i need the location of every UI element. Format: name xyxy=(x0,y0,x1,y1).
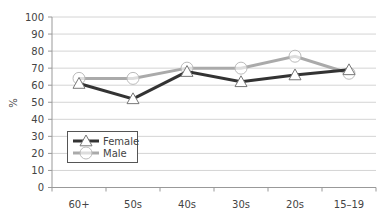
series-line xyxy=(79,70,349,99)
y-tick-label: 40 xyxy=(31,114,44,125)
y-axis: 0102030405060708090100 xyxy=(25,12,52,194)
y-tick-label: 60 xyxy=(31,80,44,91)
y-tick-label: 10 xyxy=(31,165,44,176)
y-tick-label: 30 xyxy=(31,131,44,142)
x-tick-label: 30s xyxy=(232,199,250,210)
y-tick-label: 90 xyxy=(31,29,44,40)
circle-marker xyxy=(235,62,247,74)
legend: FemaleMale xyxy=(68,132,140,163)
y-tick-label: 0 xyxy=(38,182,44,193)
legend-label: Female xyxy=(103,136,139,147)
circle-marker xyxy=(127,72,139,84)
series-female xyxy=(73,64,355,104)
x-tick-label: 40s xyxy=(178,199,196,210)
series-male xyxy=(73,50,355,84)
y-tick-label: 80 xyxy=(31,46,44,57)
x-tick-label: 60+ xyxy=(68,199,89,210)
y-tick-label: 50 xyxy=(31,97,44,108)
y-tick-label: 70 xyxy=(31,63,44,74)
y-tick-label: 20 xyxy=(31,148,44,159)
circle-marker xyxy=(289,50,301,62)
x-tick-label: 20s xyxy=(286,199,304,210)
data-series xyxy=(73,50,355,103)
circle-marker xyxy=(80,147,92,159)
x-tick-label: 50s xyxy=(124,199,142,210)
legend-label: Male xyxy=(103,148,127,159)
x-axis: 60+50s40s30s20s15–19 xyxy=(52,188,376,210)
x-tick-label: 15–19 xyxy=(334,199,364,210)
y-tick-label: 100 xyxy=(25,12,44,23)
y-axis-label: % xyxy=(8,98,19,108)
line-chart: 0102030405060708090100 60+50s40s30s20s15… xyxy=(0,0,389,220)
